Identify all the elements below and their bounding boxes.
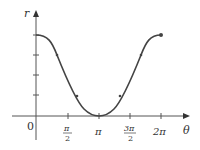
curve-r-1-plus-cos [36,35,161,116]
tick-label-pi-half-den: 2 [65,134,70,143]
tick-label-pi: π [94,126,102,137]
tick-label-pi-half-num: π [63,124,70,133]
y-axis-arrow-icon [33,10,39,17]
endpoint-dot [159,33,163,37]
tick-label-3pi-half-den: 2 [128,134,133,143]
origin-label: 0 [27,120,34,133]
polar-cartesian-graph: r θ 0 π 2 π 3π 2 2π [0,0,200,150]
x-axis-label: θ [183,124,190,137]
tick-label-2pi: 2π [152,126,166,137]
tick-label-3pi-half-num: 3π [124,124,135,133]
x-axis-arrow-icon [183,113,190,119]
y-axis-label: r [24,7,30,20]
